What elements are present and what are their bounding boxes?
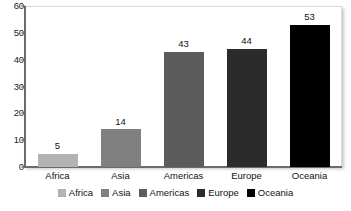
bar-americas[interactable] (164, 52, 204, 167)
bar-group: 5 (26, 6, 89, 167)
y-axis-tick-mark (21, 32, 25, 33)
legend-swatch-icon (101, 189, 109, 197)
bar-value-label: 5 (55, 141, 60, 151)
legend-label: Asia (112, 188, 130, 198)
bar-value-label: 14 (115, 117, 126, 127)
bar-group: 14 (89, 6, 152, 167)
x-axis-label-africa: Africa (45, 170, 69, 182)
legend-item-asia[interactable]: Asia (101, 188, 130, 198)
bar-value-label: 43 (178, 39, 189, 49)
y-axis-tick-mark (21, 167, 25, 168)
legend-swatch-icon (247, 189, 255, 197)
legend-label: Oceania (258, 188, 293, 198)
x-axis-category-labels: AfricaAsiaAmericasEuropeOceania (26, 170, 341, 184)
x-axis-label-europe: Europe (231, 170, 262, 182)
bar-africa[interactable] (38, 154, 78, 167)
y-axis-tick-labels: 0102030405060 (0, 0, 24, 211)
y-axis-tick-mark (21, 113, 25, 114)
x-axis-label-asia: Asia (111, 170, 129, 182)
bar-europe[interactable] (227, 49, 267, 167)
legend-item-africa[interactable]: Africa (58, 188, 93, 198)
legend-item-americas[interactable]: Americas (139, 188, 190, 198)
legend-swatch-icon (58, 189, 66, 197)
legend-item-oceania[interactable]: Oceania (247, 188, 293, 198)
y-axis-tick-mark (21, 6, 25, 7)
bar-group: 44 (215, 6, 278, 167)
x-axis-label-americas: Americas (164, 170, 204, 182)
bar-oceania[interactable] (290, 25, 330, 167)
legend-item-europe[interactable]: Europe (197, 188, 239, 198)
legend-swatch-icon (139, 189, 147, 197)
chart-legend: AfricaAsiaAmericasEuropeOceania (0, 188, 351, 198)
bar-value-label: 53 (304, 12, 315, 22)
legend-label: Americas (150, 188, 190, 198)
y-axis-tick-mark (21, 140, 25, 141)
bar-chart: 0102030405060 514434453 AfricaAsiaAmeric… (0, 0, 351, 211)
bar-group: 43 (152, 6, 215, 167)
x-axis-label-oceania: Oceania (292, 170, 327, 182)
legend-label: Europe (208, 188, 239, 198)
legend-label: Africa (69, 188, 93, 198)
bars-container: 514434453 (26, 6, 341, 167)
legend-swatch-icon (197, 189, 205, 197)
y-axis-tick-mark (21, 86, 25, 87)
bar-group: 53 (278, 6, 341, 167)
y-axis-tick-mark (21, 59, 25, 60)
bar-asia[interactable] (101, 129, 141, 167)
bar-value-label: 44 (241, 36, 252, 46)
